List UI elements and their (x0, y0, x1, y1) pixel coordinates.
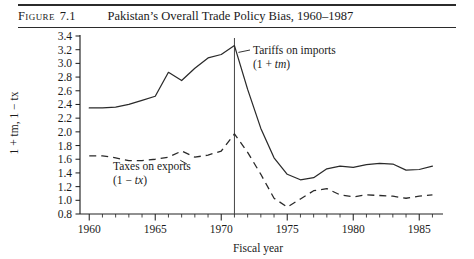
exports-annotation-line1: Taxes on exports (113, 160, 191, 173)
figure-number: 7.1 (60, 9, 76, 24)
y-tick-label-1.4: 1.4 (58, 167, 73, 179)
x-axis-title: Fiscal year (233, 242, 283, 255)
x-tick-label-1965: 1965 (144, 223, 167, 235)
imports-annotation-line2: (1 + tm) (253, 58, 290, 71)
y-tick-label-2.8: 2.8 (58, 71, 73, 83)
y-axis-title-var2: tx (8, 91, 20, 100)
x-tick-label-1985: 1985 (408, 223, 431, 235)
y-tick-label-1.2: 1.2 (58, 181, 73, 193)
y-tick-label-2.0: 2.0 (58, 126, 73, 138)
y-tick-label-1.0: 1.0 (58, 194, 73, 206)
x-tick-label-1960: 1960 (78, 223, 101, 235)
imports-annot-prefix: (1 + (253, 58, 275, 71)
figure-title: Pakistan’s Overall Trade Policy Bias, 19… (107, 9, 353, 24)
y-tick-label-1.6: 1.6 (58, 153, 73, 165)
y-axis-title: 1 + tm, 1 − tx (8, 91, 21, 154)
figure-label: Figure (18, 9, 55, 24)
caption-rule-top (18, 4, 456, 6)
imports-annotation-line1: Tariffs on imports (253, 44, 336, 57)
x-tick-label-1980: 1980 (342, 223, 365, 235)
exports-annot-prefix: (1 − (113, 174, 135, 187)
imports-annotation-leader (238, 50, 250, 52)
chart-plot-area: 0.81.01.21.41.61.82.02.22.42.62.83.03.23… (0, 28, 474, 259)
x-tick-label-1975: 1975 (276, 223, 299, 235)
y-tick-label-3.2: 3.2 (58, 44, 73, 56)
y-axis-title-prefix: 1 + (8, 136, 20, 154)
imports-annot-variable: tm (275, 58, 287, 70)
y-axis-title-var1: tm (8, 124, 20, 136)
exports-annot-suffix: ) (143, 174, 147, 187)
exports-annotation-line2: (1 − tx) (113, 174, 147, 187)
y-tick-label-2.2: 2.2 (58, 112, 73, 124)
y-axis-ticks: 0.81.01.21.41.61.82.02.22.42.62.83.03.23… (58, 30, 80, 220)
y-tick-label-3.4: 3.4 (58, 30, 73, 42)
trade-policy-bias-chart: 0.81.01.21.41.61.82.02.22.42.62.83.03.23… (0, 28, 474, 259)
y-tick-label-2.6: 2.6 (58, 85, 73, 97)
y-tick-label-0.8: 0.8 (58, 208, 73, 220)
imports-annot-suffix: ) (286, 58, 290, 71)
y-tick-label-1.8: 1.8 (58, 140, 73, 152)
x-tick-label-1970: 1970 (210, 223, 233, 235)
y-tick-label-2.4: 2.4 (58, 98, 73, 110)
figure-container: Figure 7.1 Pakistan’s Overall Trade Poli… (0, 0, 474, 259)
x-axis-ticks: 196019651970197519801985 (78, 214, 433, 235)
y-tick-label-3.0: 3.0 (58, 57, 73, 69)
figure-caption: Figure 7.1 Pakistan’s Overall Trade Poli… (18, 4, 456, 28)
y-axis-title-mid: , 1 − (8, 101, 21, 125)
